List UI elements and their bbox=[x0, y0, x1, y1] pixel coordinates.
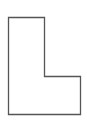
diagram-canvas bbox=[0, 0, 87, 124]
l-shape-outline bbox=[9, 18, 81, 115]
